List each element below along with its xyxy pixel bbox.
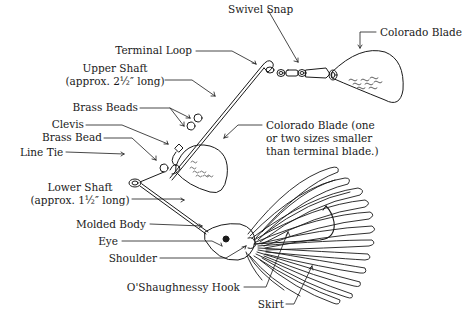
terminal-loop [262,61,274,73]
skirt [246,167,375,304]
label-swivel-snap: Swivel Snap [228,3,293,15]
label-lower-shaft-length: (approx. 1½″ long) [20,194,140,206]
label-colorado-blade-small-3: than terminal blade.) [266,145,379,157]
label-colorado-blade-small-1: Colorado Blade (one [266,119,375,131]
lower-shaft [140,184,208,234]
label-molded-body: Molded Body [60,218,146,230]
label-upper-shaft: Upper Shaft [60,62,170,74]
label-line-tie: Line Tie [20,146,63,158]
label-upper-shaft-length: (approx. 2½″ long) [60,75,170,87]
label-oshaughnessy-hook: O'Shaughnessy Hook [120,281,240,293]
small-colorado-blade [176,145,227,193]
eye-dot [223,236,229,242]
swivel-snap [277,68,337,80]
label-brass-beads: Brass Beads [60,101,138,113]
brass-bead [160,164,168,172]
label-colorado-blade-small-2: or two sizes smaller [266,132,372,144]
label-colorado-blade-terminal: Colorado Blade [380,26,462,38]
spinnerbait-diagram: Swivel Snap Colorado Blade Terminal Loop… [0,0,467,319]
spinnerbait-drawing [0,0,467,319]
terminal-colorado-blade [332,51,403,103]
label-shoulder: Shoulder [100,252,157,264]
label-eye: Eye [90,235,118,247]
label-brass-bead: Brass Bead [30,131,102,143]
label-lower-shaft: Lower Shaft [20,181,140,193]
label-clevis: Clevis [40,118,84,130]
blade-hammered-texture-small [190,161,213,177]
label-skirt: Skirt [250,298,284,310]
label-terminal-loop: Terminal Loop [100,44,192,56]
